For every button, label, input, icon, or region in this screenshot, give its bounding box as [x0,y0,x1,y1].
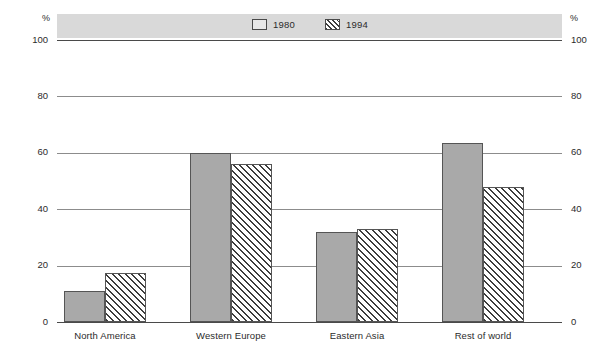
plot-area: 100 100 80 80 60 60 40 40 20 20 0 0 [57,40,562,322]
y-tick-right-0: 0 [571,317,576,327]
y-axis-unit-right: % [570,13,578,23]
legend-label-1980: 1980 [273,19,295,30]
bar-north-america-1980 [64,291,105,322]
y-tick-right-60: 60 [571,147,582,157]
bar-group-eastern-asia [316,40,398,322]
bar-eastern-asia-1994 [357,229,398,322]
bar-group-north-america [64,40,146,322]
y-tick-right-40: 40 [571,204,582,214]
bars-layer [57,40,562,322]
category-label-eastern-asia: Eastern Asia [330,330,385,341]
bar-rest-of-world-1994 [483,187,524,322]
gridline-0-baseline [57,322,562,323]
legend-entry-1980: 1980 [252,19,295,30]
y-tick-left-0: 0 [43,317,48,327]
category-label-north-america: North America [74,330,136,341]
bar-rest-of-world-1980 [442,143,483,322]
y-axis-unit-left: % [42,13,50,23]
y-tick-right-100: 100 [571,35,587,45]
legend-label-1994: 1994 [346,19,368,30]
bar-group-rest-of-world [442,40,524,322]
bar-north-america-1994 [105,273,146,322]
bar-western-europe-1980 [190,153,231,322]
y-tick-left-40: 40 [37,204,48,214]
y-tick-left-80: 80 [37,91,48,101]
legend-entry-1994: 1994 [325,19,368,30]
legend-swatch-1994-icon [325,19,340,30]
bar-western-europe-1994 [231,164,272,322]
bar-group-western-europe [190,40,272,322]
category-label-rest-of-world: Rest of world [455,330,512,341]
y-tick-right-20: 20 [571,260,582,270]
bar-eastern-asia-1980 [316,232,357,322]
category-label-western-europe: Western Europe [196,330,266,341]
y-tick-left-100: 100 [32,35,48,45]
y-tick-left-20: 20 [37,260,48,270]
bar-chart-figure: 1980 1994 % % 100 100 80 80 60 60 40 40 … [0,0,609,362]
y-tick-right-80: 80 [571,91,582,101]
legend-swatch-1980-icon [252,19,267,30]
legend-banner: 1980 1994 [57,14,562,38]
y-tick-left-60: 60 [37,147,48,157]
